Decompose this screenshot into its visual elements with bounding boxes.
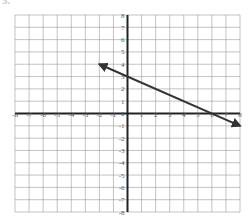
- x-tick-label: 5: [196, 111, 200, 119]
- x-tick-label: -2: [96, 111, 102, 119]
- y-tick-label: 2: [121, 85, 125, 93]
- x-tick-label: 3: [168, 111, 172, 119]
- y-tick-label: 1: [121, 98, 125, 106]
- y-tick-label: 4: [121, 61, 125, 69]
- x-tick-label: 7: [224, 111, 228, 119]
- x-tick-label: -7: [26, 111, 32, 119]
- y-tick-label: -7: [119, 196, 125, 204]
- y-tick-label: -2: [119, 135, 125, 143]
- x-tick-label: 1: [140, 111, 144, 119]
- y-tick-label: -4: [119, 159, 125, 167]
- x-tick-label: 8: [238, 111, 242, 119]
- x-tick-label: -5: [54, 111, 60, 119]
- y-tick-label: 0: [121, 110, 125, 118]
- x-tick-label: 4: [182, 111, 186, 119]
- y-tick-label: 6: [121, 36, 125, 44]
- x-tick-label: 2: [154, 111, 158, 119]
- x-tick-label: -4: [68, 111, 74, 119]
- x-tick-label: -1: [111, 111, 117, 119]
- coordinate-plane: -8-7-6-5-4-3-2-112345678876543210-1-2-3-…: [0, 0, 248, 220]
- y-tick-label: -3: [119, 147, 125, 155]
- x-tick-label: -8: [12, 111, 18, 119]
- y-tick-label: 5: [121, 48, 125, 56]
- y-tick-label: -6: [119, 184, 125, 192]
- axes: [15, 15, 240, 212]
- y-tick-label: -5: [119, 172, 125, 180]
- x-tick-label: -6: [40, 111, 46, 119]
- y-tick-label: -8: [119, 209, 125, 217]
- y-tick-label: 7: [121, 24, 125, 32]
- x-tick-label: -3: [82, 111, 88, 119]
- y-tick-label: -1: [119, 122, 125, 130]
- y-tick-label: 8: [121, 12, 125, 20]
